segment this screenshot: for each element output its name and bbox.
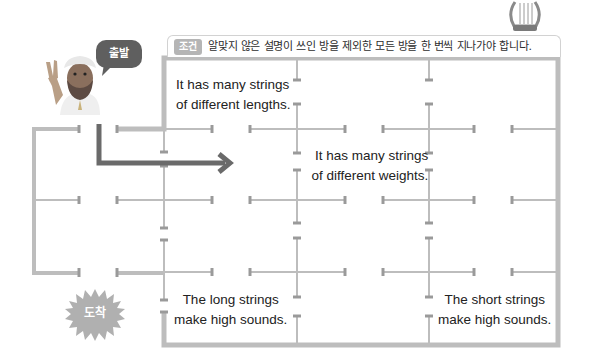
start-bubble: 출발 bbox=[96, 40, 142, 68]
room-line: It has many strings bbox=[176, 75, 291, 95]
room-line: The long strings bbox=[174, 290, 287, 310]
room-line: make high sounds. bbox=[174, 310, 287, 330]
musician-character-icon bbox=[46, 56, 100, 115]
room-line: The short strings bbox=[438, 290, 551, 310]
lyre-icon bbox=[511, 2, 540, 31]
arrive-badge: 도착 bbox=[65, 288, 125, 338]
maze-puzzle: 조건 알맞지 않은 설명이 쓰인 방을 제외한 모든 방을 한 번씩 지나가야 … bbox=[0, 0, 589, 363]
room-middle[interactable]: It has many strings of different weights… bbox=[305, 146, 428, 186]
room-top-left[interactable]: It has many strings of different lengths… bbox=[176, 75, 291, 115]
room-line: of different weights. bbox=[305, 166, 428, 186]
condition-tag: 조건 bbox=[174, 39, 202, 55]
room-bottom-left[interactable]: The long strings make high sounds. bbox=[174, 290, 287, 330]
room-bottom-right[interactable]: The short strings make high sounds. bbox=[438, 290, 551, 330]
condition-text: 알맞지 않은 설명이 쓰인 방을 제외한 모든 방을 한 번씩 지나가야 합니다… bbox=[208, 39, 532, 55]
room-line: It has many strings bbox=[305, 146, 428, 166]
condition-bar: 조건 알맞지 않은 설명이 쓰인 방을 제외한 모든 방을 한 번씩 지나가야 … bbox=[167, 35, 561, 57]
room-line: make high sounds. bbox=[438, 310, 551, 330]
room-line: of different lengths. bbox=[176, 95, 291, 115]
